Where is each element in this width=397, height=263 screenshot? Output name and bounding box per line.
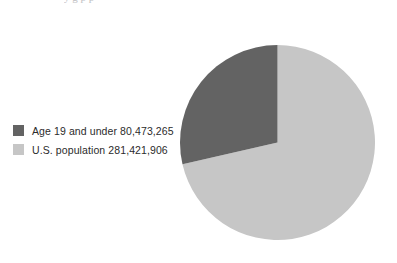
legend-color-swatch-icon — [13, 144, 24, 155]
pie-chart-figure: y g p p Age 19 and under 80,473,265 U.S.… — [0, 0, 397, 263]
legend-item-age-19-and-under: Age 19 and under 80,473,265 — [13, 121, 178, 140]
legend-item-label: Age 19 and under 80,473,265 — [32, 125, 174, 137]
pie-chart-graphic — [180, 33, 375, 252]
legend-item-label: U.S. population 281,421,906 — [32, 144, 168, 156]
pie-svg — [180, 33, 375, 252]
clipped-header-artifact: y g p p — [0, 0, 397, 9]
clipped-header-text: y g p p — [64, 0, 94, 3]
chart-legend: Age 19 and under 80,473,265 U.S. populat… — [13, 121, 178, 159]
pie-slices — [180, 45, 375, 240]
legend-color-swatch-icon — [13, 125, 24, 136]
legend-item-us-population: U.S. population 281,421,906 — [13, 140, 178, 159]
